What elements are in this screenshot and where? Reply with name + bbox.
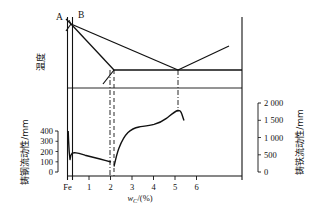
x-axis-unit: /(%)	[137, 193, 152, 203]
left-tick-label-100: 100	[40, 157, 53, 167]
point-label-a: A	[56, 12, 63, 22]
point-label-b: B	[78, 10, 84, 20]
steel-fluidity-curve	[68, 131, 111, 162]
left-inner-axis	[55, 131, 58, 172]
x-tick-marks	[68, 176, 197, 180]
gamma-boundary-line	[103, 70, 114, 84]
right-tick-label-2000: 2 000	[264, 98, 283, 108]
fluidity-plot-group: Fe 1 2 3 4 5 6 wC/(%) 400 300 200	[19, 98, 305, 204]
x-tick-label-4: 4	[151, 182, 156, 192]
right-tick-label-0: 0	[264, 167, 268, 177]
left-axis-title: 铸钢流动性/mm	[19, 119, 30, 185]
left-tick-label-400: 400	[40, 126, 53, 136]
x-tick-label-3: 3	[130, 182, 134, 192]
temperature-axis-label: 温度	[35, 53, 46, 71]
x-axis-title: wC/(%)	[127, 193, 152, 204]
right-tick-label-1000: 1 000	[264, 133, 283, 143]
right-tick-label-1500: 1 500	[264, 115, 283, 125]
liquidus-right-branch	[178, 46, 229, 70]
phase-diagram-group: A B 温度	[35, 10, 242, 180]
solidus-line	[71, 24, 114, 70]
x-tick-label-fe: Fe	[63, 182, 72, 192]
right-axis-title: 铸铁流动性/mm	[294, 109, 305, 175]
right-axis-scale	[258, 103, 261, 172]
left-tick-label-200: 200	[40, 147, 53, 157]
x-tick-label-6: 6	[194, 182, 198, 192]
x-tick-label-2: 2	[108, 182, 112, 192]
right-tick-label-500: 500	[264, 150, 277, 160]
x-tick-label-5: 5	[173, 182, 177, 192]
liquidus-left-branch	[71, 24, 178, 70]
figure-container: A B 温度 Fe 1 2 3 4 5	[0, 0, 320, 211]
x-tick-label-1: 1	[87, 182, 91, 192]
peritectic-mark-lower	[66, 24, 71, 31]
chart-svg: A B 温度 Fe 1 2 3 4 5	[0, 0, 320, 211]
left-tick-label-300: 300	[40, 136, 53, 146]
iron-fluidity-curve	[114, 110, 184, 166]
left-tick-label-0: 0	[49, 167, 53, 177]
